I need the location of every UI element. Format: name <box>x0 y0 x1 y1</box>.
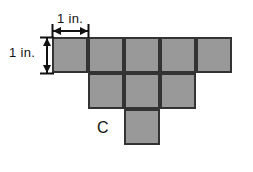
vertical-dimension-arrow <box>38 29 56 83</box>
unit-square <box>196 37 232 73</box>
geometry-figure: 1 in. 1 in. C <box>0 0 253 172</box>
unit-square <box>124 37 160 73</box>
vertical-dimension-label: 1 in. <box>9 46 35 59</box>
horizontal-dimension-label: 1 in. <box>57 12 83 25</box>
unit-square <box>124 73 160 109</box>
unit-square <box>52 37 88 73</box>
unit-square <box>160 37 196 73</box>
unit-square <box>124 109 160 145</box>
unit-square <box>160 73 196 109</box>
unit-square <box>88 37 124 73</box>
unit-square <box>88 73 124 109</box>
region-label-c: C <box>97 120 109 136</box>
